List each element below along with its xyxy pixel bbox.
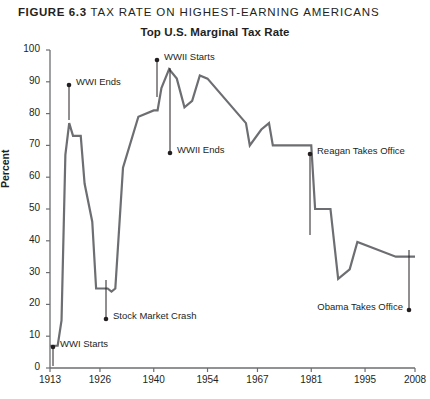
y-axis-tick-label: 100	[14, 43, 40, 54]
annotation-label: WWI Ends	[76, 76, 121, 87]
x-axis-tick-label: 1954	[184, 374, 232, 385]
x-axis-tick-label: 1940	[130, 374, 178, 385]
figure-root: FIGURE 6.3 TAX RATE ON HIGHEST-EARNING A…	[0, 0, 430, 399]
x-axis-tick-label: 1995	[341, 374, 389, 385]
y-axis-tick-label: 90	[14, 75, 40, 86]
y-axis-tick-label: 0	[14, 361, 40, 372]
annotation-label: Obama Takes Office	[293, 301, 403, 312]
annotation-dot	[155, 58, 160, 63]
annotation-label: Stock Market Crash	[113, 310, 196, 321]
annotation-label: WWII Starts	[164, 51, 215, 62]
annotation-dot	[51, 345, 56, 350]
annotation-dot	[67, 83, 72, 88]
annotation-label: WWI Starts	[60, 338, 108, 349]
x-axis-tick-label: 1926	[76, 374, 124, 385]
y-axis-tick-label: 30	[14, 266, 40, 277]
annotation-dot	[407, 308, 412, 313]
y-axis-tick-label: 80	[14, 107, 40, 118]
annotation-dot	[308, 152, 313, 157]
annotation-dot	[104, 317, 109, 322]
x-axis-tick-label: 1967	[233, 374, 281, 385]
x-axis-tick-label: 1981	[287, 374, 335, 385]
annotation-dot	[168, 151, 173, 156]
x-axis-tick-label: 1913	[26, 374, 74, 385]
y-axis-tick-label: 40	[14, 234, 40, 245]
x-axis-tick-label: 2008	[391, 374, 430, 385]
y-axis-tick-label: 70	[14, 138, 40, 149]
y-axis-tick-label: 10	[14, 329, 40, 340]
y-axis-tick-label: 20	[14, 297, 40, 308]
y-axis-tick-label: 50	[14, 202, 40, 213]
y-axis-title: Percent	[0, 149, 11, 188]
y-axis-tick-label: 60	[14, 170, 40, 181]
annotation-label: Reagan Takes Office	[317, 145, 405, 156]
annotation-label: WWII Ends	[177, 144, 225, 155]
